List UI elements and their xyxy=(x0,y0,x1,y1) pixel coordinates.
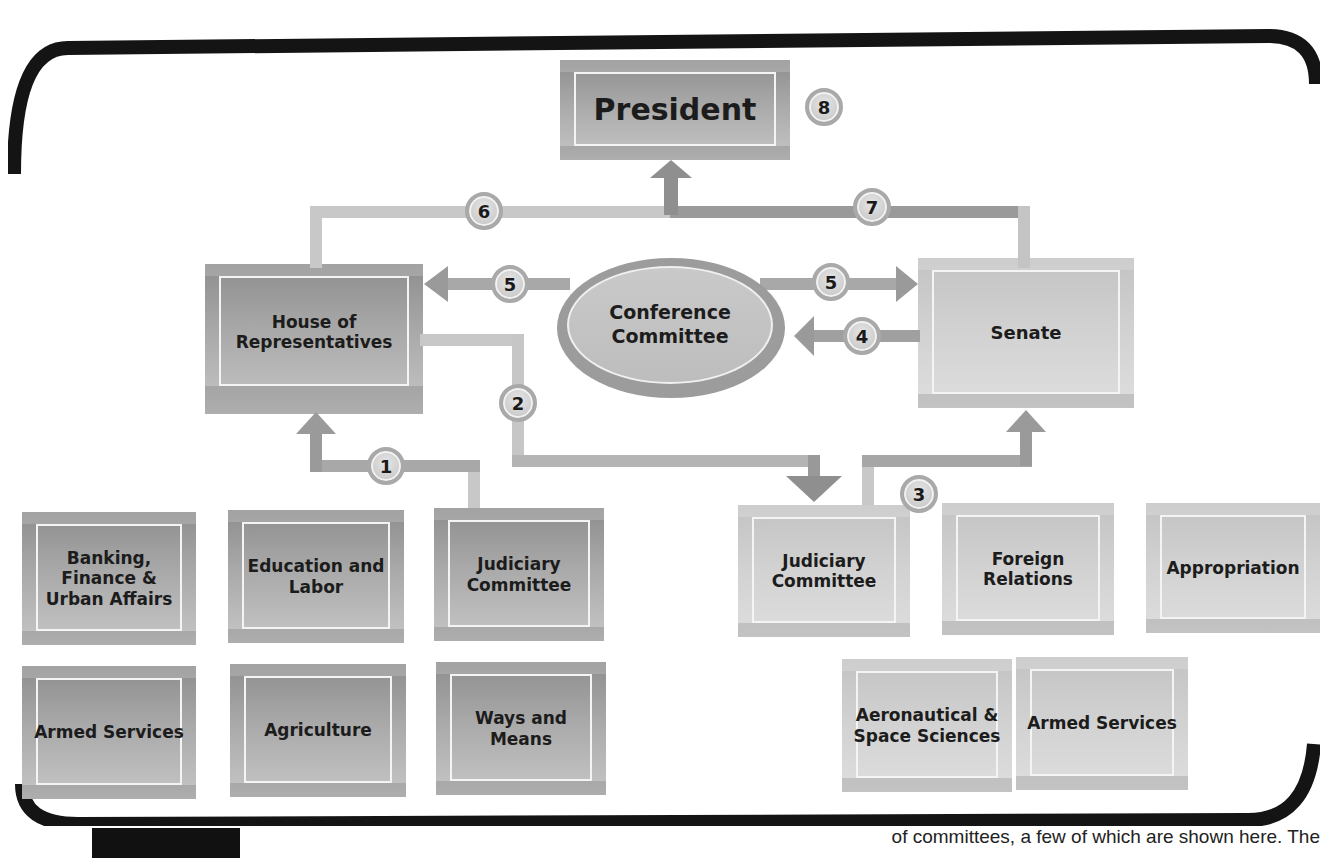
step-badge-7: 7 xyxy=(853,188,891,226)
committee-label: Agriculture xyxy=(254,720,382,740)
committee-label: Judiciary Committee xyxy=(434,554,604,595)
house-label: House of Representatives xyxy=(205,312,423,353)
step-badge-3: 3 xyxy=(900,475,938,513)
step-badge-1: 1 xyxy=(367,447,405,485)
conference-label: Conference Committee xyxy=(569,301,771,349)
committee-label: Education and Labor xyxy=(228,556,404,597)
step-badge-4: 4 xyxy=(843,317,881,355)
step-badge-5-house: 5 xyxy=(491,265,529,303)
committee-label: Aeronautical & Space Sciences xyxy=(842,705,1012,746)
president-label: President xyxy=(584,92,767,128)
senate-label: Senate xyxy=(981,322,1072,344)
committee-label: Foreign Relations xyxy=(942,549,1114,590)
committee-label: Armed Services xyxy=(1017,713,1187,733)
committee-label: Ways and Means xyxy=(436,708,606,749)
committee-label: Armed Services xyxy=(24,722,194,742)
committee-label: Judiciary Committee xyxy=(738,551,910,592)
step-badge-6: 6 xyxy=(465,192,503,230)
step-badge-2: 2 xyxy=(499,384,537,422)
committee-label: Appropriation xyxy=(1156,558,1309,578)
committee-label: Banking, Finance & Urban Affairs xyxy=(22,548,196,609)
conference-committee: Conference Committee xyxy=(557,258,785,398)
step-badge-5-senate: 5 xyxy=(812,263,850,301)
step-badge-8: 8 xyxy=(805,88,843,126)
